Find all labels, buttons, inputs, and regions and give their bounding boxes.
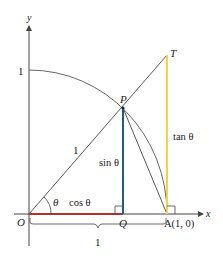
sin-label: sin θ [99,157,119,168]
theta-label: θ [53,196,59,208]
x-axis-label: x [205,208,211,219]
unit-circle-arc [29,70,167,214]
theta-arc [44,197,51,214]
point-O-label: O [17,216,25,228]
point-P-dot [121,106,124,109]
cos-label: cos θ [69,197,91,208]
point-Q-label: Q [119,217,127,229]
point-A-label: A(1, 0) [164,218,195,230]
y-axis-label: y [26,12,32,23]
y-tick-one-label: 1 [18,65,24,77]
chord-PA [123,108,167,214]
brace-one-label: 1 [95,236,101,248]
point-P-label: P [119,93,127,105]
line-OT [29,55,167,214]
right-angle-Q [115,206,123,214]
radius-label: 1 [73,144,79,156]
tan-label: tan θ [173,131,193,142]
unit-circle-diagram: y x 1 1 θ cos θ sin θ tan θ O Q A(1, 0) … [0,0,223,264]
brace-one [30,218,166,228]
right-angle-A [167,206,175,214]
point-T-label: T [170,47,177,59]
